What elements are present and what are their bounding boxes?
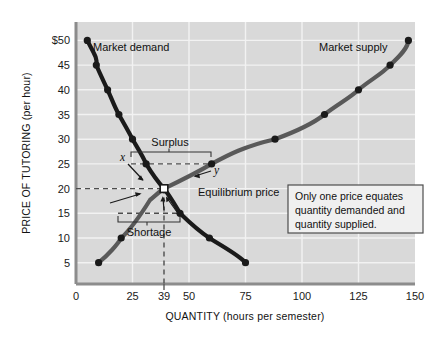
data-point — [405, 37, 412, 44]
y-tick-label: 25 — [58, 158, 70, 170]
x-axis-title: QUANTITY (hours per semester) — [165, 310, 324, 322]
data-point — [95, 259, 102, 266]
data-point — [104, 86, 111, 93]
surplus-label: Surplus — [151, 136, 189, 148]
data-point — [93, 62, 100, 69]
y-tick-label: 10 — [58, 232, 70, 244]
x-tick-label: 150 — [406, 290, 424, 302]
data-point — [321, 111, 328, 118]
data-point — [115, 111, 122, 118]
equilibrium-marker — [160, 185, 168, 193]
data-point — [143, 160, 150, 167]
x-point-label: x — [119, 151, 126, 163]
data-point — [84, 37, 91, 44]
y-tick-label: 15 — [58, 207, 70, 219]
data-point — [387, 62, 394, 69]
data-point — [206, 234, 213, 241]
callout-line: quantity demanded and — [295, 204, 405, 216]
x-tick-label: 50 — [183, 290, 195, 302]
x-tick-label-equilibrium: 39 — [158, 290, 170, 302]
data-point — [271, 136, 278, 143]
data-point — [242, 259, 249, 266]
market-demand-label: Market demand — [93, 41, 169, 53]
equilibrium-price-label: Equilibrium price — [198, 186, 279, 198]
y-tick-label: $50 — [52, 34, 70, 46]
data-point — [118, 234, 125, 241]
data-point — [129, 136, 136, 143]
y-axis-title: PRICE OF TUTORING (per hour) — [20, 72, 32, 234]
x-tick-label: 25 — [126, 290, 138, 302]
shortage-label: Shortage — [127, 226, 172, 238]
y-tick-label: 5 — [64, 257, 70, 269]
callout-line: Only one price equates — [295, 190, 403, 202]
callout-line: quantity supplied. — [295, 218, 377, 230]
x-tick-label: 75 — [239, 290, 251, 302]
data-point — [355, 86, 362, 93]
market-supply-label: Market supply — [319, 41, 388, 53]
callout-box: Only one price equates quantity demanded… — [288, 185, 423, 233]
y-tick-label: 30 — [58, 133, 70, 145]
y-tick-label: 40 — [58, 84, 70, 96]
x-tick-label: 125 — [349, 290, 367, 302]
x-tick-label: 0 — [73, 290, 79, 302]
y-tick-label: 45 — [58, 59, 70, 71]
y-tick-label: 20 — [58, 183, 70, 195]
chart-svg: $50 45 40 35 30 25 20 15 10 5 0 25 39 50… — [0, 0, 441, 339]
supply-demand-chart: $50 45 40 35 30 25 20 15 10 5 0 25 39 50… — [0, 0, 441, 339]
y-point-label: y — [213, 164, 220, 177]
y-tick-label: 35 — [58, 109, 70, 121]
x-tick-label: 100 — [293, 290, 311, 302]
data-point — [176, 210, 183, 217]
